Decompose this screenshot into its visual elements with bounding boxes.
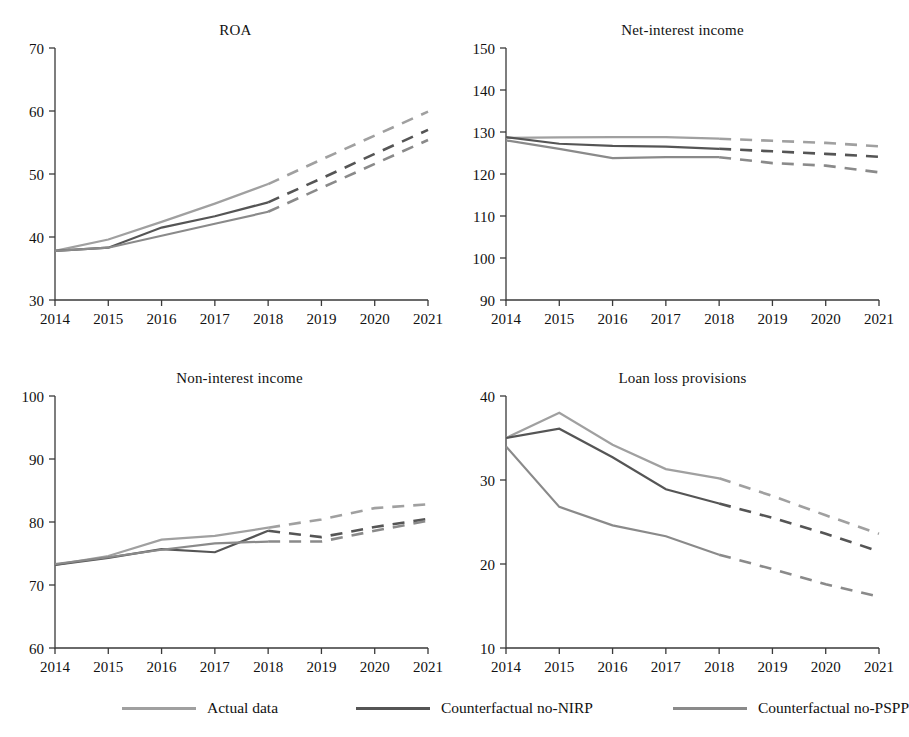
chart-svg-non-interest-income: 6070809010020142015201620172018201920202…	[0, 348, 451, 693]
y-tick-label: 70	[29, 41, 44, 57]
y-tick-label: 90	[29, 452, 44, 468]
series-line-forecast	[719, 555, 879, 597]
x-tick-label: 2020	[811, 311, 841, 327]
y-tick-label: 80	[29, 515, 44, 531]
x-tick-label: 2014	[40, 311, 71, 327]
series-line-forecast	[719, 478, 879, 533]
x-tick-label: 2019	[306, 659, 336, 675]
y-tick-label: 110	[473, 209, 495, 225]
chart-svg-roa: 3040506070201420152016201720182019202020…	[0, 0, 451, 345]
x-tick-label: 2017	[200, 311, 231, 327]
x-tick-label: 2015	[544, 659, 574, 675]
chart-panel-net-interest-income: Net-interest income 90100110120130140150…	[451, 0, 902, 345]
x-tick-label: 2020	[811, 659, 841, 675]
series-line-forecast	[719, 504, 879, 552]
series-line-solid	[506, 413, 719, 479]
x-tick-label: 2014	[40, 659, 71, 675]
chart-legend: Actual data Counterfactual no-NIRP Count…	[0, 693, 902, 723]
legend-label-actual-data: Actual data	[207, 699, 278, 717]
legend-label-counterfactual-no-nirp: Counterfactual no-NIRP	[441, 699, 593, 717]
x-tick-label: 2018	[704, 659, 734, 675]
series-line-solid	[506, 446, 719, 554]
x-tick-label: 2017	[651, 659, 682, 675]
x-tick-label: 2016	[598, 311, 629, 327]
series-line-forecast	[268, 519, 428, 537]
y-tick-label: 100	[22, 389, 45, 405]
x-tick-label: 2018	[704, 311, 734, 327]
series-line-solid	[55, 184, 268, 251]
x-tick-label: 2018	[253, 311, 283, 327]
chart-panel-roa: ROA 304050607020142015201620172018201920…	[0, 0, 451, 345]
legend-item-counterfactual-no-nirp: Counterfactual no-NIRP	[356, 699, 593, 717]
chart-panel-loan-loss-provisions: Loan loss provisions 1020304020142015201…	[451, 348, 902, 693]
y-tick-label: 140	[473, 83, 496, 99]
legend-item-actual-data: Actual data	[122, 699, 278, 717]
x-tick-label: 2015	[544, 311, 574, 327]
series-line-solid	[506, 140, 719, 158]
legend-label-counterfactual-no-pspp: Counterfactual no-PSPP	[758, 699, 909, 717]
series-line-solid	[506, 429, 719, 504]
x-tick-label: 2016	[147, 659, 178, 675]
x-tick-label: 2021	[413, 659, 443, 675]
y-tick-label: 100	[473, 251, 496, 267]
x-tick-label: 2021	[413, 311, 443, 327]
y-tick-label: 20	[480, 557, 495, 573]
y-tick-label: 90	[480, 293, 495, 309]
x-tick-label: 2017	[651, 311, 682, 327]
y-tick-label: 150	[473, 41, 496, 57]
legend-swatch-actual-data	[122, 707, 196, 710]
legend-swatch-counterfactual-no-pspp	[673, 707, 747, 710]
series-line-solid	[506, 137, 719, 139]
chart-panel-non-interest-income: Non-interest income 60708090100201420152…	[0, 348, 451, 693]
y-tick-label: 10	[480, 641, 495, 657]
x-tick-label: 2015	[93, 311, 123, 327]
series-line-forecast	[268, 112, 428, 184]
y-tick-label: 30	[29, 293, 44, 309]
x-tick-label: 2020	[360, 659, 390, 675]
series-line-forecast	[719, 149, 879, 157]
series-line-solid	[55, 542, 268, 565]
x-tick-label: 2018	[253, 659, 283, 675]
x-tick-label: 2019	[757, 311, 787, 327]
series-line-forecast	[719, 139, 879, 147]
legend-item-counterfactual-no-pspp: Counterfactual no-PSPP	[673, 699, 909, 717]
x-tick-label: 2021	[864, 659, 894, 675]
series-line-forecast	[719, 157, 879, 172]
y-tick-label: 120	[473, 167, 496, 183]
x-tick-label: 2014	[491, 311, 522, 327]
x-tick-label: 2017	[200, 659, 231, 675]
series-line-forecast	[268, 140, 428, 212]
chart-svg-net-interest-income: 9010011012013014015020142015201620172018…	[451, 0, 902, 345]
x-tick-label: 2016	[147, 311, 178, 327]
y-tick-label: 40	[29, 230, 44, 246]
series-line-forecast	[268, 130, 428, 202]
x-tick-label: 2014	[491, 659, 522, 675]
x-tick-label: 2015	[93, 659, 123, 675]
x-tick-label: 2019	[306, 311, 336, 327]
y-tick-label: 60	[29, 104, 44, 120]
chart-svg-loan-loss-provisions: 1020304020142015201620172018201920202021	[451, 348, 902, 693]
x-tick-label: 2021	[864, 311, 894, 327]
y-tick-label: 30	[480, 473, 495, 489]
x-tick-label: 2020	[360, 311, 390, 327]
y-tick-label: 130	[473, 125, 496, 141]
y-tick-label: 50	[29, 167, 44, 183]
y-tick-label: 70	[29, 578, 44, 594]
x-tick-label: 2019	[757, 659, 787, 675]
y-tick-label: 40	[480, 389, 495, 405]
x-tick-label: 2016	[598, 659, 629, 675]
legend-swatch-counterfactual-no-nirp	[356, 707, 430, 710]
y-tick-label: 60	[29, 641, 44, 657]
